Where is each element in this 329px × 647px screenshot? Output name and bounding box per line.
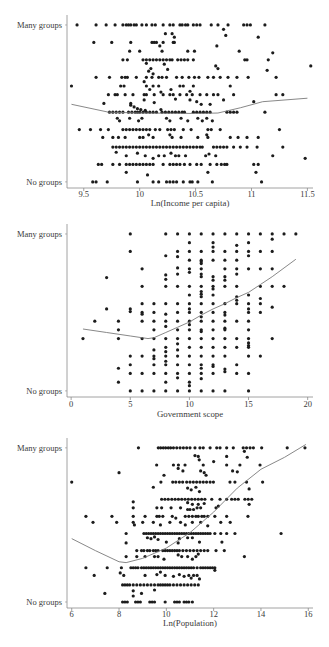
data-point [247, 320, 250, 323]
data-point [142, 583, 145, 586]
data-point [129, 41, 132, 44]
data-point [172, 180, 175, 183]
data-point [175, 163, 178, 166]
data-point [191, 93, 194, 96]
data-point [186, 487, 189, 490]
data-point [188, 90, 191, 93]
data-point [212, 145, 215, 148]
y-label-many-groups: Many groups [17, 229, 62, 239]
data-point [294, 232, 297, 235]
data-point [271, 250, 274, 253]
data-point [235, 285, 238, 288]
data-point [164, 337, 167, 340]
data-point [222, 98, 225, 101]
data-point [257, 136, 260, 139]
data-point [113, 23, 116, 26]
data-point [223, 328, 226, 331]
data-point [224, 34, 227, 37]
data-point [138, 145, 141, 148]
data-point [164, 600, 167, 603]
data-point [111, 136, 114, 139]
data-point [158, 515, 161, 518]
data-point [206, 549, 209, 552]
data-point [125, 154, 128, 157]
data-point [263, 23, 266, 26]
data-point [166, 68, 169, 71]
data-point [235, 259, 238, 262]
data-point [188, 389, 191, 392]
data-point [116, 93, 119, 96]
data-point [117, 471, 120, 474]
data-point [152, 521, 155, 524]
data-point [165, 76, 168, 79]
data-point [236, 470, 239, 473]
data-point [148, 145, 151, 148]
data-point [169, 128, 172, 131]
data-point [181, 549, 184, 552]
data-point [145, 62, 148, 65]
data-point [180, 555, 183, 558]
x-tick-label: 14 [257, 609, 266, 619]
data-point [167, 498, 170, 501]
data-point [223, 320, 226, 323]
data-point [127, 111, 130, 114]
data-point [124, 136, 127, 139]
data-point [184, 515, 187, 518]
data-point [178, 145, 181, 148]
data-point [139, 583, 142, 586]
data-point [141, 389, 144, 392]
data-point [202, 481, 205, 484]
data-point [233, 481, 236, 484]
data-point [135, 128, 138, 131]
data-point [286, 446, 289, 449]
data-point [152, 180, 155, 183]
data-point [126, 76, 129, 79]
data-point [186, 58, 189, 61]
data-point [200, 295, 203, 298]
data-point [175, 76, 178, 79]
data-point [152, 136, 155, 139]
x-tick-label: 10 [135, 189, 144, 199]
data-point [254, 171, 257, 174]
data-point [172, 463, 175, 466]
data-point [149, 67, 152, 70]
data-point [238, 463, 241, 466]
data-point [153, 535, 156, 538]
data-point [271, 337, 274, 340]
data-point [163, 498, 166, 501]
data-point [210, 498, 213, 501]
data-point [141, 136, 144, 139]
data-point [247, 307, 250, 310]
data-point [178, 84, 181, 87]
data-point [118, 163, 121, 166]
data-point [164, 278, 167, 281]
data-point [223, 346, 226, 349]
data-point [223, 250, 226, 253]
data-point [172, 446, 175, 449]
data-point [183, 463, 186, 466]
data-point [194, 555, 197, 558]
data-point [135, 23, 138, 26]
data-point [211, 354, 214, 357]
data-point [172, 145, 175, 148]
data-point [173, 128, 176, 131]
x-tick-label: 10 [185, 399, 194, 409]
data-point [223, 370, 226, 373]
data-point [162, 93, 165, 96]
data-point [143, 80, 146, 83]
data-point [203, 471, 206, 474]
data-point [192, 481, 195, 484]
data-point [164, 325, 167, 328]
data-point [176, 363, 179, 366]
data-point [200, 330, 203, 333]
data-point [188, 98, 191, 101]
data-point [247, 346, 250, 349]
data-point [204, 154, 207, 157]
data-point [191, 600, 194, 603]
data-point [176, 372, 179, 375]
x-tick-label: 20 [303, 399, 312, 409]
data-point [176, 302, 179, 305]
data-point [117, 367, 120, 370]
data-point [218, 498, 221, 501]
data-point [135, 549, 138, 552]
